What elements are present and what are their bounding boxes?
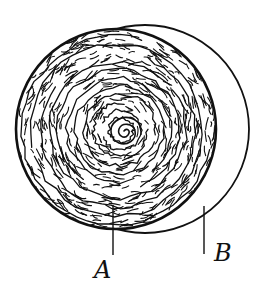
label-a: A: [94, 258, 111, 282]
diagram-canvas: A B: [0, 0, 261, 299]
label-b: B: [214, 241, 232, 265]
